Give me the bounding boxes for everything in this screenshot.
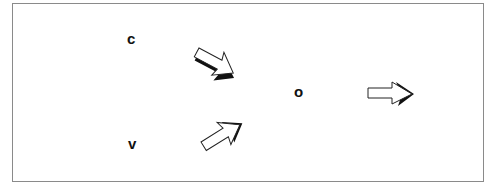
arrow-c-to-o-icon [189, 41, 243, 89]
arrow-v-to-o-icon [197, 111, 249, 157]
arrow-o-output-icon [368, 82, 414, 106]
arrows-layer [0, 0, 494, 194]
